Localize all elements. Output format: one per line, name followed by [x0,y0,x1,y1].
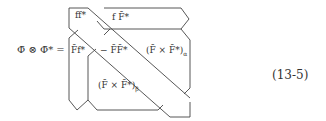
cell-f-Fbar-star: f F̄* [112,12,129,22]
cross-alpha-text: (F̄ × F̄*) [146,45,183,55]
cell-cross-alpha: (F̄ × F̄*)α [146,45,187,57]
equation-number: (13-5) [272,68,308,82]
equation-lhs: Φ̄ ⊗ Φ̄* = [17,44,65,55]
beta-subscript: β [135,85,138,92]
cell-minus-FbarFbar-star: − F̄F̄* [100,45,127,55]
cell-Fbar-f-star: F̄f* [71,45,85,55]
tensor-decomposition-diagram [0,0,326,121]
alpha-subscript: α [183,50,187,57]
cross-beta-text: (F̄ × F̄*) [98,80,135,90]
cell-cross-beta: (F̄ × F̄*)β [98,80,139,92]
cell-ff-star: ff* [75,10,86,20]
